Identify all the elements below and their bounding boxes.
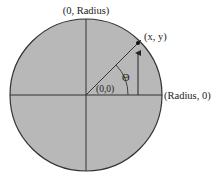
label-point: (x, y) (144, 31, 167, 43)
label-angle: Θ (122, 72, 130, 83)
polar-diagram: (0, Radius) (Radius, 0) (x, y) (0,0) Θ (0, 0, 218, 182)
label-right: (Radius, 0) (164, 90, 211, 102)
point-marker (136, 41, 140, 45)
label-origin: (0,0) (96, 84, 114, 95)
label-top: (0, Radius) (63, 5, 110, 17)
